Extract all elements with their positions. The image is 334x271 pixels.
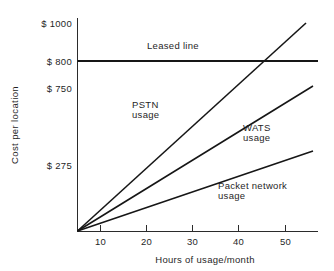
y-tick-label-800: $ 800: [47, 56, 72, 67]
x-tick-label-10: 10: [95, 236, 106, 247]
y-tick-label-750: $ 750: [47, 83, 72, 94]
x-axis-title: Hours of usage/month: [155, 254, 254, 265]
y-tick-label-275: $ 275: [47, 160, 72, 171]
x-tick-label-20: 20: [141, 236, 152, 247]
series-label-pstn-usage-line2: usage: [132, 109, 159, 120]
x-tick-label-40: 40: [233, 236, 244, 247]
series-label-wats-usage-line2: usage: [243, 132, 270, 143]
y-tick-label-1000: $ 1000: [41, 18, 72, 29]
cost-comparison-chart: 10 20 30 40 50 $ 1000 $ 800 $ 750 $ 275 …: [0, 0, 334, 271]
y-axis-title: Cost per location: [9, 86, 20, 164]
series-label-leased-line: Leased line: [147, 40, 199, 51]
x-tick-label-30: 30: [187, 236, 198, 247]
series-label-packet-network-usage-line2: usage: [218, 190, 245, 201]
chart-plot-area: 10 20 30 40 50 $ 1000 $ 800 $ 750 $ 275 …: [0, 0, 334, 271]
x-tick-label-50: 50: [280, 236, 291, 247]
